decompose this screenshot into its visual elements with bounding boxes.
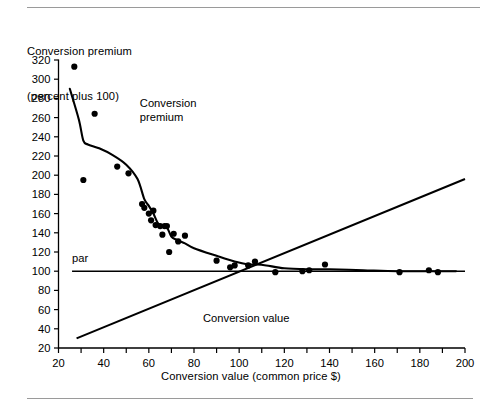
data-series-group [70,64,465,339]
x-tick-label: 80 [188,357,200,369]
y-tick-label: 280 [32,92,51,104]
y-tick-label: 60 [38,304,50,316]
annotation-conversion-value: Conversion value [203,312,289,324]
x-tick-label: 40 [97,357,109,369]
annotation-conversion-premium-line1: Conversion [140,97,197,109]
data-point [166,249,172,255]
y-tick-label: 80 [38,284,50,296]
y-tick-label-group: 2040608010012014016018020022024026028030… [32,54,51,354]
tick-marks-group [54,60,465,353]
data-point [114,163,120,169]
x-tick-label: 180 [410,357,429,369]
data-point [125,170,131,176]
x-tick-label: 160 [365,357,384,369]
annotation-conversion-premium-line2: premium [140,111,184,123]
x-tick-label: 120 [275,357,294,369]
data-point [322,261,328,267]
x-axis-title: Conversion value (common price $) [0,370,502,382]
y-tick-label: 220 [32,150,51,162]
x-tick-label: 140 [320,357,339,369]
chart-plot: 2040608010012014016018020022024026028030… [0,0,502,407]
y-tick-label: 120 [32,246,51,258]
x-tick-label-group: 20406080100120140160180200 [52,357,474,369]
y-tick-label: 180 [32,188,51,200]
y-tick-label: 100 [32,265,51,277]
data-point [141,205,147,211]
data-point [71,64,77,70]
data-point [213,258,219,264]
figure-container: Conversion premium (percent plus 100) 20… [0,0,502,407]
data-point [80,177,86,183]
y-tick-label: 40 [38,323,50,335]
x-tick-label: 60 [143,357,155,369]
data-point [159,232,165,238]
conversion-premium-curve [70,89,456,271]
chart-annotations-group: ConversionpremiumparConversion value [72,97,289,324]
x-tick-label: 100 [230,357,249,369]
y-tick-label: 260 [32,112,51,124]
y-tick-label: 200 [32,169,51,181]
data-point [92,111,98,117]
data-point [148,217,154,223]
y-tick-label: 300 [32,73,51,85]
x-tick-label: 200 [456,357,475,369]
y-tick-label: 20 [38,342,50,354]
data-point [272,269,278,275]
annotation-par: par [72,252,88,264]
x-tick-label: 20 [52,357,64,369]
data-point [182,233,188,239]
bottom-divider-rule [27,398,473,399]
y-tick-label: 140 [32,227,51,239]
y-tick-label: 320 [32,54,51,66]
y-tick-label: 240 [32,131,51,143]
y-tick-label: 160 [32,208,51,220]
data-point [232,262,238,268]
